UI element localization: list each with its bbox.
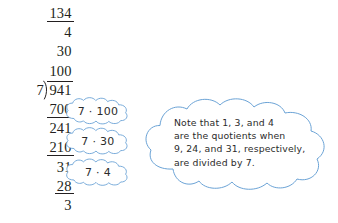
note-cloud-text: Note that 1, 3, and 4 are the quotients …	[174, 116, 314, 169]
note-cloud: Note that 1, 3, and 4 are the quotients …	[143, 99, 335, 192]
partial-quotient-row: 4	[18, 23, 76, 42]
cloud-7-times-4: 7 · 4	[62, 157, 134, 188]
partial-quotient-row: 30	[18, 42, 76, 61]
partial-quotient-value: 134	[49, 4, 72, 23]
cloud-7-times-100: 7 · 100	[62, 96, 134, 126]
partial-quotient-value: 100	[49, 62, 72, 81]
remainder-value: 3	[64, 196, 72, 215]
note-line: 9, 24, and 31, respectively,	[174, 142, 314, 155]
long-division-figure: 134 4 30 100 7941 700 241 210 31	[0, 0, 338, 223]
note-line: are divided by 7.	[174, 156, 314, 169]
partial-quotient-row: 100	[18, 62, 76, 81]
note-line: Note that 1, 3, and 4	[174, 116, 314, 129]
cloud-7-times-30: 7 · 30	[62, 126, 134, 156]
partial-quotient-row: 134	[18, 4, 76, 23]
remainder-row: 3	[18, 196, 76, 215]
partial-quotient-value: 30	[56, 42, 72, 61]
note-line: are the quotients when	[174, 129, 314, 142]
partial-quotient-value: 4	[64, 23, 72, 42]
